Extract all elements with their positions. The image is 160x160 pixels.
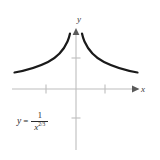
equation-label: y = 1 x 2/3 [17, 111, 48, 132]
equation-fraction: 1 x 2/3 [31, 111, 48, 132]
curve-right-branch [82, 34, 138, 73]
x-axis-arrow-icon [132, 86, 140, 93]
equation-denominator-exponent: 2/3 [38, 122, 45, 128]
equation-lhs: y [17, 117, 21, 127]
y-axis-arrow-icon [73, 28, 80, 35]
graph-canvas [0, 0, 160, 160]
equation-denominator: x 2/3 [32, 122, 47, 132]
equation-equals-sign: = [23, 117, 28, 126]
equation-numerator: 1 [35, 111, 45, 121]
x-axis-label: x [141, 85, 145, 94]
figure-container: y x y = 1 x 2/3 [0, 0, 160, 160]
y-axis-label: y [77, 15, 81, 24]
curve-left-branch [15, 34, 71, 73]
